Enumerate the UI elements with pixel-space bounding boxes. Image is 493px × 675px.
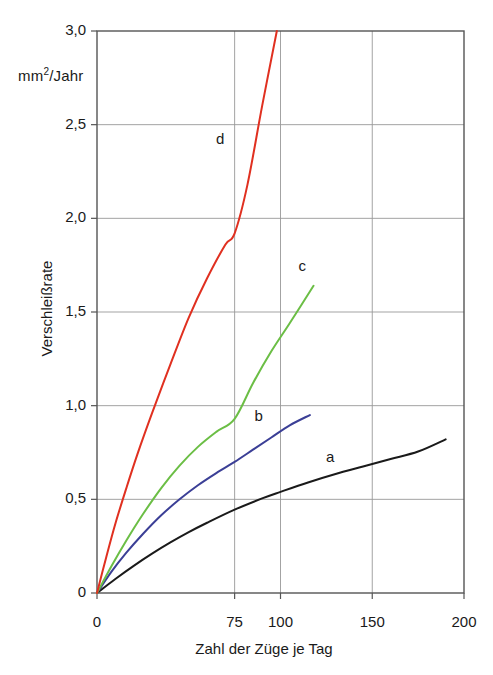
series-label-c: c [299, 257, 307, 274]
y-tick-label-0: 0 [22, 583, 86, 600]
x-tick-label-100: 100 [251, 613, 311, 630]
y-tick-label-2-0: 2,0 [22, 208, 86, 225]
series-line-a [97, 439, 446, 593]
series-label-a: a [326, 448, 334, 465]
series-label-d: d [216, 130, 224, 147]
y-axis-unit-base: mm [18, 67, 43, 84]
plot-canvas [0, 0, 493, 675]
gridlines [97, 31, 464, 593]
x-axis-title: Zahl der Züge je Tag [134, 640, 394, 657]
y-axis-unit-tail: /Jahr [49, 67, 83, 84]
y-axis-unit-label: mm2/Jahr [18, 66, 84, 84]
y-tick-label-2-5: 2,5 [22, 115, 86, 132]
tick-marks [91, 31, 464, 599]
x-tick-label-0: 0 [67, 613, 127, 630]
y-tick-label-1-0: 1,0 [22, 396, 86, 413]
chart-figure: mm2/Jahr Verschleißrate Zahl der Züge je… [0, 0, 493, 675]
x-tick-label-150: 150 [342, 613, 402, 630]
y-tick-label-3-0: 3,0 [22, 21, 86, 38]
series-label-b: b [254, 407, 262, 424]
y-tick-label-0-5: 0,5 [22, 489, 86, 506]
y-tick-label-1-5: 1,5 [22, 302, 86, 319]
x-tick-label-200: 200 [434, 613, 493, 630]
series-line-c [97, 286, 314, 593]
